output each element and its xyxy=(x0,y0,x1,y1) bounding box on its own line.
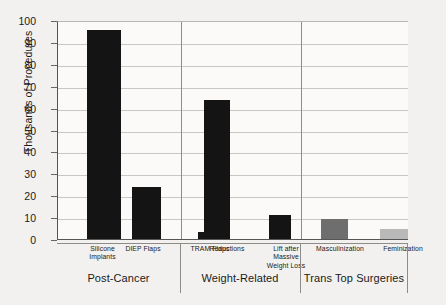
plot-area xyxy=(57,21,408,240)
group-band-topline xyxy=(57,243,408,244)
bar-lift-after-massive-weight-loss[interactable] xyxy=(269,215,291,240)
y-tick-100: 100 xyxy=(2,16,36,27)
group-label-trans-top-surgeries: Trans Top Surgeries xyxy=(300,272,408,284)
y-tick-10: 10 xyxy=(2,213,36,224)
bar-chart: Thousands of Procedures 100 90 80 70 60 … xyxy=(0,0,446,305)
group-band: Post-Cancer Weight-Related Trans Top Sur… xyxy=(57,243,408,293)
group-band-separator-1 xyxy=(180,243,181,293)
y-tickmark-0 xyxy=(51,240,57,241)
y-tick-50: 50 xyxy=(2,125,36,136)
bar-silicone-implants[interactable] xyxy=(87,30,121,240)
y-tick-40: 40 xyxy=(2,147,36,158)
y-tick-0: 0 xyxy=(2,235,36,246)
y-tick-70: 70 xyxy=(2,81,36,92)
y-tick-80: 80 xyxy=(2,60,36,71)
group-label-post-cancer: Post-Cancer xyxy=(57,272,180,284)
group-label-weight-related: Weight-Related xyxy=(180,272,300,284)
y-tick-20: 20 xyxy=(2,191,36,202)
bar-masculinization[interactable] xyxy=(321,219,348,240)
bar-diep-flaps[interactable] xyxy=(132,187,161,240)
y-tick-90: 90 xyxy=(2,38,36,49)
bar-reductions[interactable] xyxy=(204,100,230,240)
y-tick-60: 60 xyxy=(2,103,36,114)
group-band-separator-3 xyxy=(407,243,408,293)
group-band-separator-2 xyxy=(300,243,301,293)
bars-layer xyxy=(58,22,408,240)
x-axis-line xyxy=(58,239,408,240)
y-tick-30: 30 xyxy=(2,169,36,180)
